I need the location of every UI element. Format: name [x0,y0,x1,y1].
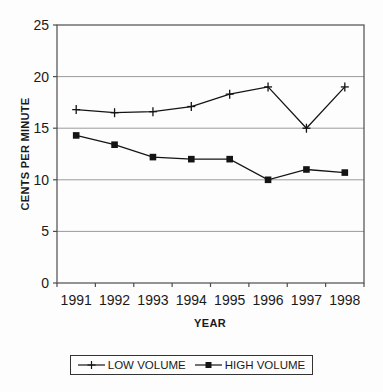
svg-text:10: 10 [33,172,49,188]
line-chart: 0510152025199119921993199419951996199719… [0,0,383,340]
square-line-marker-icon [195,360,222,370]
svg-text:0: 0 [41,275,49,291]
x-axis-title: YEAR [194,317,226,329]
legend-label-low-volume: LOW VOLUME [108,359,186,371]
svg-text:1996: 1996 [252,292,283,308]
chart-legend: LOW VOLUME HIGH VOLUME [0,355,383,375]
svg-text:15: 15 [33,120,49,136]
legend-label-high-volume: HIGH VOLUME [225,359,306,371]
svg-text:5: 5 [41,223,49,239]
y-axis-title: CENTS PER MINUTE [19,98,31,211]
chart-plot-area: 0510152025199119921993199419951996199719… [33,17,364,308]
svg-text:1994: 1994 [176,292,207,308]
svg-text:1995: 1995 [214,292,245,308]
svg-text:25: 25 [33,17,49,33]
svg-text:1993: 1993 [137,292,168,308]
chart-page: 0510152025199119921993199419951996199719… [0,0,383,392]
svg-text:1991: 1991 [61,292,92,308]
svg-text:1992: 1992 [99,292,130,308]
legend-item-high-volume: HIGH VOLUME [195,359,306,371]
plus-line-marker-icon [78,360,105,370]
legend-box: LOW VOLUME HIGH VOLUME [70,355,313,375]
svg-text:20: 20 [33,69,49,85]
svg-text:1998: 1998 [329,292,360,308]
svg-text:1997: 1997 [291,292,322,308]
legend-item-low-volume: LOW VOLUME [78,359,186,371]
